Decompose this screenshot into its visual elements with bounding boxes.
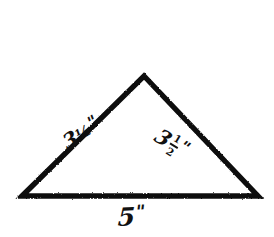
measurement-base-whole: 5 (117, 204, 135, 230)
figure-canvas: 3½" 312" 5" (0, 0, 274, 237)
triangle-outline (22, 76, 258, 196)
measurement-base-unit-icon: " (135, 202, 147, 221)
measurement-label-base: 5" (117, 203, 146, 230)
